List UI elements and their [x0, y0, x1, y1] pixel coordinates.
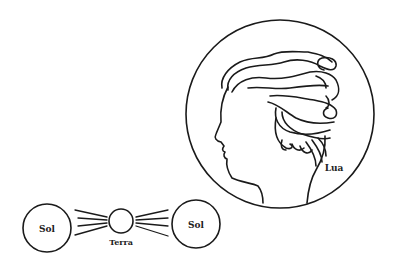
earth-circle	[109, 209, 133, 233]
rays-right	[136, 210, 168, 236]
label-lua: Lua	[325, 163, 344, 173]
rays-left	[75, 210, 107, 235]
moon-circle	[186, 20, 374, 208]
label-sol-left: Sol	[39, 224, 56, 234]
face-profile	[215, 87, 263, 203]
hair-strands	[222, 52, 339, 167]
label-sol-right: Sol	[188, 220, 205, 230]
diagram-canvas: Sol Terra Sol Lua	[0, 0, 396, 269]
label-terra: Terra	[109, 237, 133, 247]
